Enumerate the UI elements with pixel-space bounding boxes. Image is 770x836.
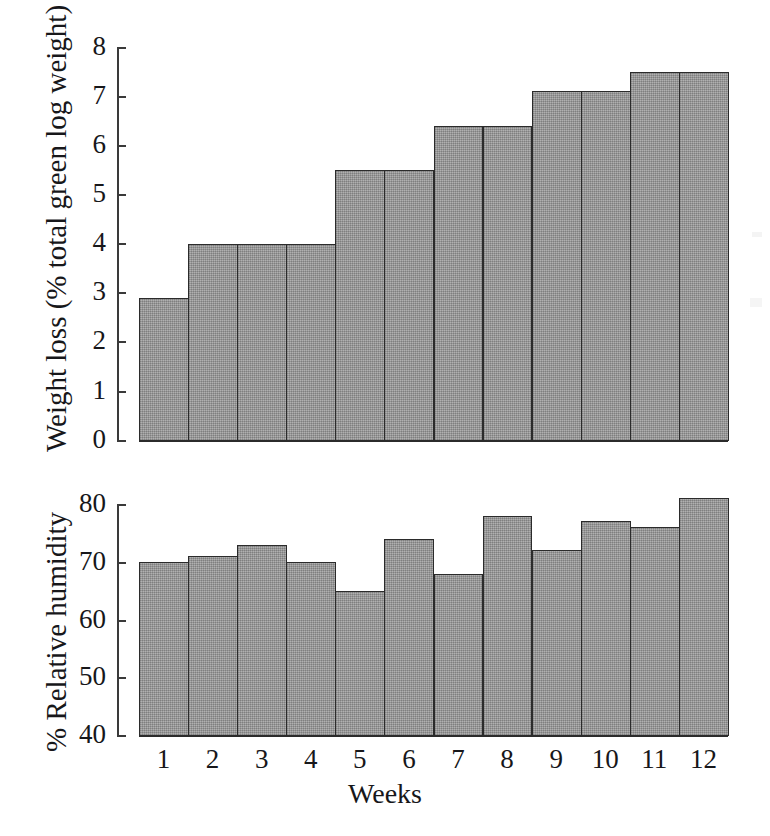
bottom-panel-x-tick-label-9: 9: [532, 746, 581, 773]
top-panel-y-tick-3: [117, 292, 126, 294]
bottom-panel-y-tick-label-80: 80: [40, 490, 106, 517]
top-panel-bar-4: [286, 244, 336, 441]
top-panel-y-tick-label-0: 0: [58, 426, 106, 453]
bottom-panel-x-tick-label-10: 10: [581, 746, 630, 773]
top-panel: Weight loss (% total green log weight) 8…: [0, 0, 770, 480]
bottom-panel-bar-1: [139, 562, 189, 736]
bottom-panel-x-axis-label: Weeks: [0, 780, 770, 808]
bottom-panel-x-tick-label-8: 8: [483, 746, 532, 773]
top-panel-y-tick-label-5: 5: [58, 180, 106, 207]
bottom-panel-bar-5: [335, 591, 385, 736]
bottom-panel-x-tick-label-2: 2: [188, 746, 237, 773]
top-panel-y-tick-6: [117, 145, 126, 147]
bottom-panel-y-tick-70: [117, 562, 126, 564]
top-panel-y-tick-label-1: 1: [58, 377, 106, 404]
bottom-panel-bar-12: [679, 498, 729, 736]
bottom-panel-x-tick-label-7: 7: [434, 746, 483, 773]
bottom-panel-x-tick-label-6: 6: [384, 746, 433, 773]
top-panel-y-tick-5: [117, 194, 126, 196]
top-panel-bar-6: [384, 170, 434, 441]
bottom-panel-y-tick-label-40: 40: [40, 721, 106, 748]
bottom-panel-x-baseline: [139, 735, 728, 737]
bottom-panel-bar-7: [434, 574, 484, 736]
top-panel-bar-9: [532, 91, 582, 441]
top-panel-y-tick-label-6: 6: [58, 131, 106, 158]
bottom-panel-y-tick-50: [117, 677, 126, 679]
top-panel-bar-12: [679, 72, 729, 441]
figure-canvas: Weight loss (% total green log weight) 8…: [0, 0, 770, 836]
bottom-panel-bar-10: [581, 521, 631, 736]
top-panel-y-tick-label-4: 4: [58, 229, 106, 256]
bottom-panel-bar-8: [483, 516, 533, 736]
bottom-panel-bar-9: [532, 550, 582, 736]
top-panel-bar-8: [483, 126, 533, 441]
top-panel-y-tick-7: [117, 96, 126, 98]
bottom-panel-bar-2: [188, 556, 238, 736]
top-panel-y-tick-4: [117, 243, 126, 245]
bottom-panel-y-tick-label-70: 70: [40, 548, 106, 575]
bottom-panel-y-tick-label-50: 50: [40, 663, 106, 690]
top-panel-bar-7: [434, 126, 484, 441]
top-panel-bar-10: [581, 91, 631, 441]
top-panel-y-tick-label-8: 8: [58, 33, 106, 60]
bottom-panel-x-tick-label-3: 3: [237, 746, 286, 773]
bottom-panel-x-tick-label-11: 11: [630, 746, 679, 773]
top-panel-bar-2: [188, 244, 238, 441]
top-panel-bar-3: [237, 244, 287, 441]
bottom-panel-y-tick-80: [117, 504, 126, 506]
top-panel-bar-1: [139, 298, 189, 441]
top-panel-y-tick-8: [117, 47, 126, 49]
top-panel-bar-11: [630, 72, 680, 441]
top-panel-y-tick-2: [117, 341, 126, 343]
bottom-panel-x-tick-label-4: 4: [286, 746, 335, 773]
bottom-panel-bar-4: [286, 562, 336, 736]
bottom-panel-y-tick-40: [117, 735, 126, 737]
top-panel-bar-5: [335, 170, 385, 441]
bottom-panel-bar-6: [384, 539, 434, 736]
bottom-panel: % Relative humidity 80 70 60 50 40 12345…: [0, 480, 770, 836]
bottom-panel-y-tick-60: [117, 620, 126, 622]
top-panel-y-tick-1: [117, 391, 126, 393]
top-panel-x-baseline: [139, 440, 728, 442]
bottom-panel-x-tick-label-12: 12: [679, 746, 728, 773]
bottom-panel-x-tick-label-1: 1: [139, 746, 188, 773]
top-panel-y-tick-label-2: 2: [58, 327, 106, 354]
bottom-panel-plot-area: [139, 504, 728, 736]
top-panel-y-tick-label-7: 7: [58, 82, 106, 109]
top-panel-plot-area: [139, 47, 728, 441]
top-panel-y-tick-label-3: 3: [58, 278, 106, 305]
bottom-panel-x-tick-label-5: 5: [335, 746, 384, 773]
bottom-panel-bar-11: [630, 527, 680, 736]
bottom-panel-bar-3: [237, 545, 287, 736]
top-panel-y-tick-0: [117, 440, 126, 442]
bottom-panel-y-tick-label-60: 60: [40, 606, 106, 633]
